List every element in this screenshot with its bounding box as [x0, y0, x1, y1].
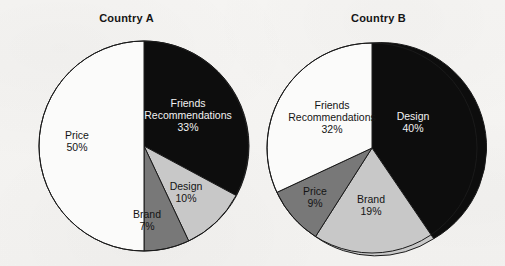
chart-title-country-a: Country A: [0, 11, 253, 25]
pie-svg-country-b: [266, 42, 478, 254]
pie-chart-country-a: [38, 40, 250, 252]
pie-chart-panel-country-b: Country B Friends Recommendations 32% De…: [252, 0, 505, 266]
figure-canvas: Country A Friends Recommendations 33% Pr…: [0, 0, 505, 266]
pie-svg-country-a: [38, 40, 250, 252]
pie-chart-panel-country-a: Country A Friends Recommendations 33% Pr…: [0, 0, 253, 266]
pie-chart-country-b: [266, 42, 478, 254]
pie-slice-price[interactable]: [39, 41, 144, 251]
chart-title-country-b: Country B: [252, 11, 505, 25]
